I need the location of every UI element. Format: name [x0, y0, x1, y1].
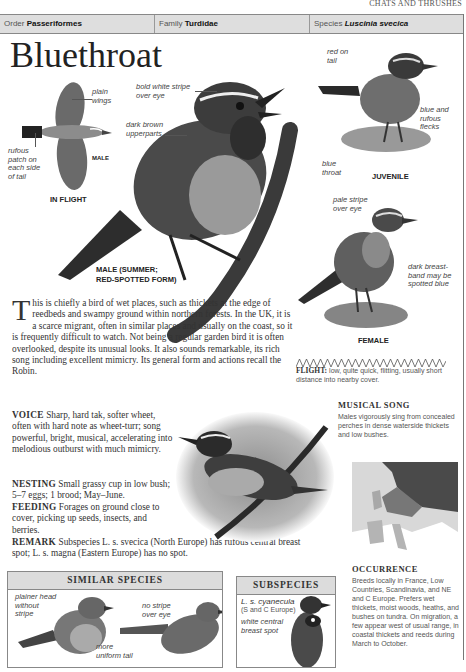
- female-illustration: [296, 200, 426, 330]
- intro-text: his is chiefly a bird of wet places, suc…: [12, 298, 292, 376]
- label-rufous-patch: rufous patch on each side of tail: [8, 147, 48, 181]
- family-label: Family: [159, 19, 183, 28]
- taxonomy-species: Species Luscinia svecica: [310, 15, 463, 33]
- europe-map-icon: [352, 462, 458, 559]
- label-plainer-head: plainer head without stripe: [15, 593, 59, 619]
- label-red-on-tail: red on tail: [327, 48, 349, 65]
- caption-male-summer-1: MALE (SUMMER;: [96, 265, 158, 274]
- caption-male-summer-2: RED-SPOTTED FORM): [96, 275, 176, 284]
- caption-female: FEMALE: [358, 336, 389, 345]
- subspecies-panel: SUBSPECIES L. s. cyanecula (S and C Euro…: [236, 576, 336, 668]
- subspecies-name: L. s. cyanecula: [241, 597, 301, 606]
- musical-song-heading: MUSICAL SONG: [338, 400, 410, 410]
- label-blue-throat: blue throat: [322, 160, 352, 177]
- running-head: CHATS AND THRUSHES: [369, 0, 462, 8]
- intro-paragraph: This is chiefly a bird of wet places, su…: [12, 298, 294, 378]
- flight-pattern-icon: [296, 353, 446, 363]
- voice-heading: VOICE: [12, 410, 44, 420]
- musical-song-text: Males vigorously sing from concealed per…: [338, 412, 458, 439]
- label-more-uniform-tail: more uniform tail: [96, 643, 136, 660]
- label-no-stripe: no stripe over eye: [142, 602, 172, 619]
- label-pale-stripe: pale stripe over eye: [333, 196, 373, 213]
- family-value: Turdidae: [185, 19, 218, 28]
- order-value: Passeriformes: [27, 19, 82, 28]
- species-value: Luscinia svecica: [345, 19, 409, 28]
- similar-species-heading: SIMILAR SPECIES: [8, 572, 222, 590]
- leader-line: [35, 133, 36, 147]
- order-label: Order: [4, 19, 24, 28]
- leader-line: [195, 91, 217, 92]
- subspecies-heading: SUBSPECIES: [237, 577, 335, 595]
- distribution-map: [352, 462, 458, 559]
- taxonomy-family: Family Turdidae: [155, 15, 310, 33]
- taxonomy-order: Order Passeriformes: [0, 15, 155, 33]
- nesting-section: NESTING Small grassy cup in low bush; 5–…: [12, 479, 174, 502]
- feeding-section: FEEDING Forages on ground close to cover…: [12, 502, 174, 536]
- occurrence-text: Breeds locally in France, Low Countries,…: [352, 576, 462, 648]
- occurrence-heading: OCCURRENCE: [352, 564, 418, 574]
- nesting-heading: NESTING: [12, 479, 56, 489]
- flight-description: FLIGHT: low, quite quick, flitting, usua…: [296, 366, 456, 384]
- label-white-central-breast-spot: white central breast spot: [241, 618, 301, 635]
- remark-heading: REMARK: [12, 537, 56, 547]
- drop-cap: T: [12, 299, 30, 321]
- female-bird-icon: [296, 200, 426, 330]
- label-dark-breast-band: dark breast-band may be spotted blue: [408, 263, 452, 289]
- perched-photo: [176, 412, 334, 542]
- flight-heading: FLIGHT:: [296, 366, 327, 375]
- label-blue-rufous-flecks: blue and rufous flecks: [420, 106, 458, 132]
- species-label: Species: [314, 19, 342, 28]
- label-bold-white-stripe: bold white stripe over eye: [136, 83, 196, 100]
- feeding-heading: FEEDING: [12, 502, 56, 512]
- subspecies-region: (S and C Europe): [241, 606, 301, 613]
- leader-line: [165, 135, 187, 136]
- perched-bluethroat-icon: [176, 412, 334, 542]
- subspecies-info: L. s. cyanecula (S and C Europe) white c…: [241, 597, 301, 635]
- taxonomy-bar: Order Passeriformes Family Turdidae Spec…: [0, 14, 463, 34]
- voice-section: VOICE Sharp, hard tak, softer wheet, oft…: [12, 410, 174, 456]
- caption-juvenile: JUVENILE: [372, 172, 409, 181]
